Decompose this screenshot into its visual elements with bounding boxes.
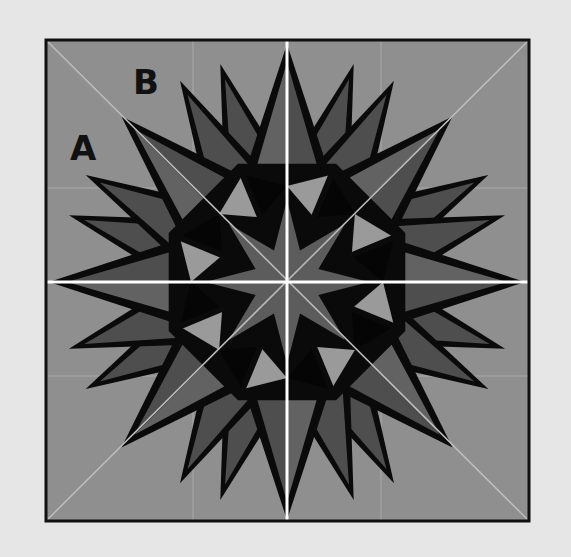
piece-label-a: A bbox=[70, 131, 96, 165]
seam-lines bbox=[46, 40, 529, 521]
piece-label-b: B bbox=[133, 65, 159, 99]
star-quilt-diagram bbox=[0, 0, 571, 557]
